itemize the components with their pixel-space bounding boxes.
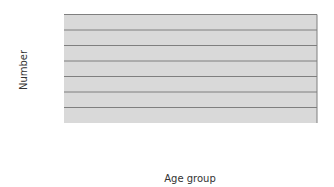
bar-chart: Number Age group [0,0,334,187]
chart-canvas: Number Age group [0,0,334,187]
y-axis-label: Number [18,49,29,90]
plot-area [64,15,317,124]
x-axis-label: Age group [164,173,216,184]
